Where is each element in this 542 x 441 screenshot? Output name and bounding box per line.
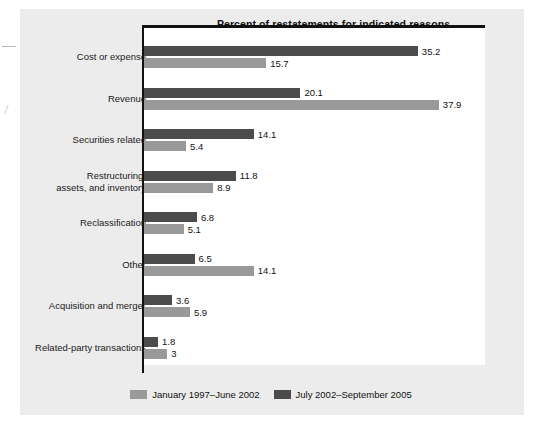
category-axis-label-line: Related-party transactions <box>0 342 146 354</box>
bar-recent <box>144 171 236 181</box>
bar-recent <box>144 254 195 264</box>
legend-swatch-recent-icon <box>274 390 291 399</box>
bar-value-label: 14.1 <box>258 266 277 276</box>
legend-label-recent: July 2002–September 2005 <box>296 389 412 400</box>
bar-value-label: 3.6 <box>176 296 189 306</box>
category-axis-label-line: Cost or expense <box>0 51 146 63</box>
category-axis-label: Other <box>0 259 146 271</box>
bar-value-label: 8.9 <box>217 183 230 193</box>
bar-earlier <box>144 141 186 151</box>
bar-value-label: 14.1 <box>258 130 277 140</box>
category-axis-label-line: Securities related <box>0 134 146 146</box>
category-axis-label-line: Acquisition and merger <box>0 300 146 312</box>
bar-recent <box>144 295 172 305</box>
bar-earlier <box>144 307 190 317</box>
category-axis-label-line: Revenue <box>0 93 146 105</box>
bar-earlier <box>144 58 266 68</box>
bar-recent <box>144 212 197 222</box>
category-axis-label: Acquisition and merger <box>0 300 146 312</box>
category-axis-label-line: Other <box>0 259 146 271</box>
legend-entry-earlier: January 1997–June 2002 <box>130 389 259 400</box>
bar-value-label: 5.1 <box>188 225 201 235</box>
category-axis-label-line: Restructuring, <box>0 170 146 182</box>
bar-value-label: 6.8 <box>201 213 214 223</box>
bar-value-label: 35.2 <box>422 47 441 57</box>
category-axis-label: Cost or expense <box>0 51 146 63</box>
bar-earlier <box>144 224 184 234</box>
bar-earlier <box>144 183 213 193</box>
bar-value-label: 15.7 <box>270 59 289 69</box>
bar-earlier <box>144 100 439 110</box>
category-axis-label: Revenue <box>0 93 146 105</box>
category-axis-label: Reclassification <box>0 217 146 229</box>
legend-entry-recent: July 2002–September 2005 <box>274 389 412 400</box>
bar-value-label: 5.9 <box>194 308 207 318</box>
chart-legend: January 1997–June 2002 July 2002–Septemb… <box>0 389 542 400</box>
bar-recent <box>144 46 418 56</box>
bar-value-label: 1.8 <box>162 337 175 347</box>
category-axis-label: Related-party transactions <box>0 342 146 354</box>
bar-earlier <box>144 266 254 276</box>
legend-swatch-earlier-icon <box>130 390 147 399</box>
category-axis-label-line: Reclassification <box>0 217 146 229</box>
category-axis-label: Securities related <box>0 134 146 146</box>
bar-recent <box>144 88 300 98</box>
bar-recent <box>144 129 254 139</box>
category-axis-label-line: assets, and inventory <box>0 182 146 194</box>
bar-value-label: 11.8 <box>240 171 258 181</box>
legend-label-earlier: January 1997–June 2002 <box>152 389 259 400</box>
bar-value-label: 6.5 <box>199 254 212 264</box>
bar-value-label: 20.1 <box>304 88 323 98</box>
bar-chart-plot: Cost or expense35.215.7Revenue20.137.9Se… <box>0 9 542 441</box>
bar-earlier <box>144 349 167 359</box>
bar-value-label: 3 <box>171 349 176 359</box>
bar-recent <box>144 337 158 347</box>
bar-value-label: 37.9 <box>443 100 462 110</box>
category-axis-label: Restructuring,assets, and inventory <box>0 170 146 193</box>
bar-value-label: 5.4 <box>190 142 203 152</box>
